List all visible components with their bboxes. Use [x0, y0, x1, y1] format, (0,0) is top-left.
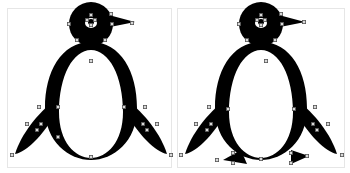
penguin-illustration: [0, 0, 350, 173]
penguin-with-feet: [179, 2, 343, 165]
penguin-without-feet: [10, 2, 172, 160]
